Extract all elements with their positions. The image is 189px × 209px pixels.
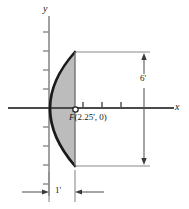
dimension-arrow-left [75,189,82,194]
dimension-arrow-down [141,158,146,165]
focus-label: F(2.25', 0) [69,113,107,122]
dimension-arrow-up [141,53,146,60]
horizontal-dimension-1ft [22,189,104,194]
vertical-dimension-6ft [141,53,146,165]
focus-label-coords: (2.25', 0) [75,112,107,122]
figure-canvas [0,0,189,209]
x-axis-label: x [175,102,179,112]
dimension-arrow-right [42,189,49,194]
y-axis-label: y [43,4,47,14]
parabolic-reflector-figure: y x F(2.25', 0) 6' 1' [0,0,189,209]
horizontal-dimension-label: 1' [55,186,61,195]
vertical-dimension-label: 6' [140,74,146,83]
